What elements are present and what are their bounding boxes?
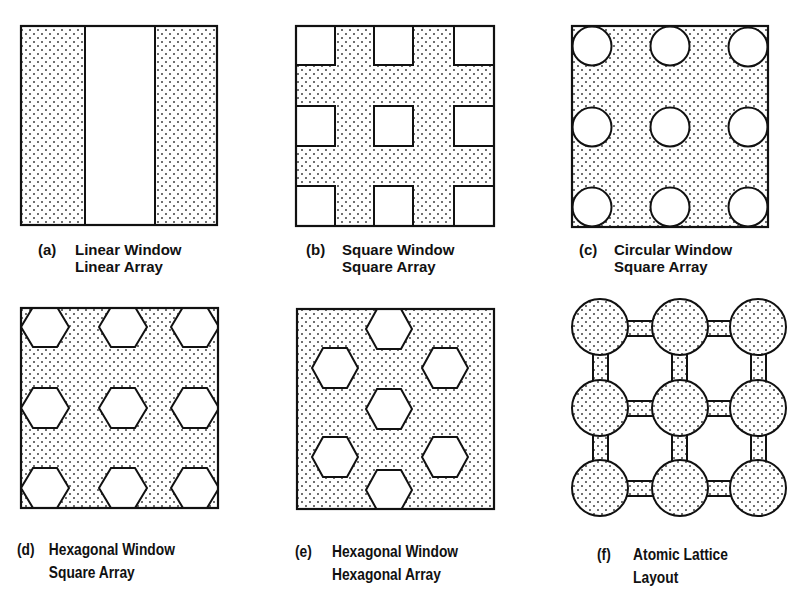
caption-c-line2: Square Array [614,258,732,275]
caption-a-tag: (a) [38,241,56,258]
caption-f-tag: (f) [597,543,611,566]
caption-d-line2: Square Array [49,561,175,584]
caption-e-tag: (e) [295,540,312,563]
caption-a-line2: Linear Array [75,258,182,275]
caption-e-line1: Hexagonal Window [332,540,458,563]
circular-windows [573,27,768,227]
caption-a-line1: Linear Window [75,241,182,258]
panel-f-atomic-lattice-layout [572,299,786,516]
window-array-figure [0,0,797,598]
caption-c-tag: (c) [579,241,597,258]
hexagonal-windows [21,307,219,508]
square-windows [296,26,494,226]
linear-window [85,26,155,225]
lattice-atoms [572,299,786,516]
caption-f-line1: Atomic Lattice [633,543,728,566]
panel-d-hexagonal-window-square-array [21,307,219,508]
dotted-stripe-left [21,26,85,225]
caption-e-line2: Hexagonal Array [332,563,458,586]
caption-b-line1: Square Window [342,241,454,258]
panel-e-hexagonal-window-hexagonal-array [297,309,494,510]
panel-c-circular-window-square-array [572,26,768,227]
dotted-stripe-right [155,26,217,225]
caption-b-line2: Square Array [342,258,454,275]
caption-c-line1: Circular Window [614,241,732,258]
panel-a-linear-window-linear-array [21,26,217,225]
caption-d-tag: (d) [17,538,35,561]
caption-f-line2: Layout [633,566,728,589]
panel-b-square-window-square-array [296,26,494,226]
caption-b-tag: (b) [306,241,325,258]
caption-d-line1: Hexagonal Window [49,538,175,561]
